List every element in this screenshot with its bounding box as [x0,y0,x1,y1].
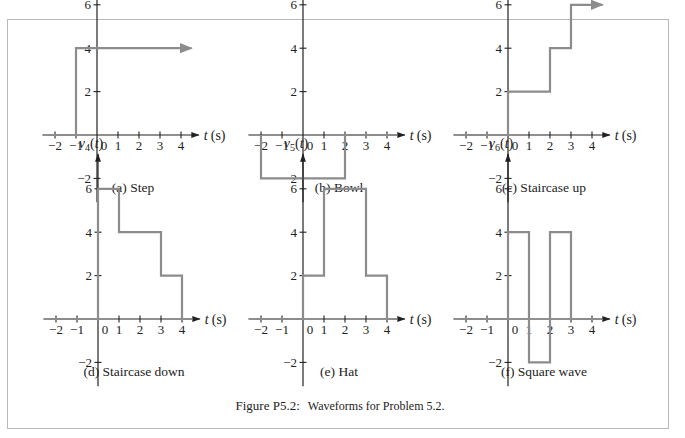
x-tick-label: 3 [363,322,370,337]
y-axis-label: v6(t) [489,136,514,153]
y-tick-label: 4 [496,225,503,240]
panel-d: −2−101234−2246v4(t)t(s)(d) Staircase dow… [43,136,226,386]
x-tick-label: −2 [459,322,473,337]
waveform-a [49,48,192,135]
y-tick-label: 6 [291,0,298,12]
x-tick-label: 3 [363,138,370,153]
x-axis-label: t(s) [615,312,637,328]
y-tick-label: 6 [86,181,93,196]
x-tick-label: 3 [568,138,575,153]
x-axis-label: t(s) [205,312,227,328]
x-tick-label: 3 [158,322,165,337]
x-axis-label: t(s) [410,312,432,328]
x-tick-label: 0 [307,322,314,337]
x-tick-label: −2 [48,138,62,153]
y-tick-label: 4 [496,41,503,56]
y-tick-label: −2 [283,355,297,370]
x-tick-label: 0 [512,322,519,337]
panel-b: −2−101234−2246v2(t)t(s)(b) Bowl [248,0,431,202]
x-tick-label: 4 [384,322,391,337]
panel-f: −2−101234−2246v6(t)t(s)(f) Square wave [453,136,636,386]
y-tick-label: 4 [291,41,298,56]
x-tick-label: 4 [589,138,596,153]
panel-caption: (c) Staircase up [502,180,586,195]
x-tick-label: −1 [70,322,84,337]
panel-a: −2−101234−2246v1(t)t(s)(a) Step [42,0,225,202]
waveform-d [50,189,193,319]
y-tick-label: 2 [291,268,298,283]
x-tick-label: 4 [179,322,186,337]
y-axis-label: v5(t) [284,136,309,153]
waveform-e [255,189,398,319]
x-axis-label: t(s) [204,128,226,144]
y-tick-label: 2 [496,268,503,283]
x-tick-label: −2 [49,322,63,337]
x-tick-label: 2 [342,322,349,337]
y-tick-label: 4 [86,225,93,240]
x-tick-label: 2 [137,322,144,337]
x-tick-label: 0 [102,322,109,337]
x-tick-label: 1 [321,322,328,337]
y-axis-label: v4(t) [79,136,104,153]
x-tick-label: 1 [526,138,533,153]
waveform-figure: −2−101234−2246v1(t)t(s)(a) Step−2−101234… [0,0,685,438]
y-tick-label: 6 [85,0,92,12]
x-tick-label: 1 [321,138,328,153]
x-tick-label: 2 [136,138,143,153]
panel-c: −2−101234−2246v3(t)t(s)(c) Staircase up [453,0,636,202]
y-tick-label: 2 [86,268,93,283]
waveform-c [460,5,603,135]
y-tick-label: 6 [496,181,503,196]
panel-caption: (d) Staircase down [83,364,184,379]
x-axis-label: t(s) [410,128,432,144]
x-tick-label: 3 [568,322,575,337]
x-tick-label: 3 [157,138,164,153]
x-tick-label: 4 [589,322,596,337]
x-tick-label: −1 [480,322,494,337]
x-axis-label: t(s) [615,128,637,144]
x-tick-label: 4 [178,138,185,153]
figure-caption-text: Waveforms for Problem 5.2. [308,399,445,413]
x-tick-label: 2 [547,138,554,153]
y-tick-label: 6 [291,181,298,196]
panel-e: −2−101234−2246v5(t)t(s)(e) Hat [248,136,431,386]
panel-caption: (e) Hat [320,364,358,379]
x-tick-label: −2 [254,322,268,337]
x-tick-label: −2 [459,138,473,153]
y-tick-label: 6 [496,0,503,12]
figure-caption: Figure P5.2: Waveforms for Problem 5.2. [236,396,445,413]
y-tick-label: 2 [496,84,503,99]
x-tick-label: 1 [116,322,123,337]
y-tick-label: 2 [291,84,298,99]
x-tick-label: −1 [275,322,289,337]
panel-caption: (b) Bowl [315,180,364,195]
panel-caption: (f) Square wave [501,364,587,379]
waveform-f [460,232,603,362]
x-tick-label: 1 [115,138,122,153]
y-tick-label: 2 [85,84,92,99]
figure-caption-label: Figure P5.2: [236,398,300,413]
x-tick-label: 4 [384,138,391,153]
y-tick-label: 4 [291,225,298,240]
